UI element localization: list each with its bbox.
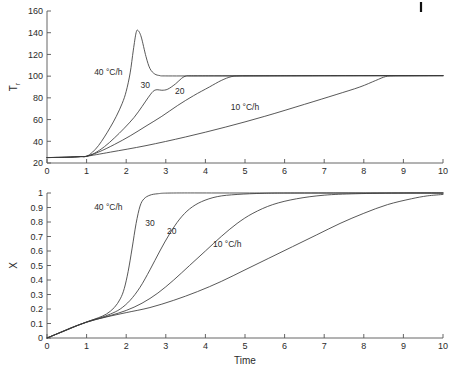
x-axis-title: Time xyxy=(234,355,256,365)
y-tick-label: 100 xyxy=(28,71,43,81)
curve-30 xyxy=(47,76,443,158)
y-tick-label: 0.6 xyxy=(30,246,43,256)
y-tick-label: 0 xyxy=(38,333,43,343)
temperature-chart: 01234567891020406080100120140160Tr40 °C/… xyxy=(8,6,448,176)
curve-40-c-h xyxy=(47,30,443,158)
x-tick-label: 3 xyxy=(163,166,168,176)
curve-annotation: 20 xyxy=(167,226,177,236)
curve-annotation: 30 xyxy=(145,218,155,228)
y-tick-label: 1 xyxy=(38,188,43,198)
y-tick-label: 0.1 xyxy=(30,319,43,329)
charts-svg: 01234567891020406080100120140160Tr40 °C/… xyxy=(0,0,454,365)
x-tick-label: 8 xyxy=(361,341,366,351)
x-tick-label: 9 xyxy=(401,341,406,351)
x-tick-label: 1 xyxy=(84,341,89,351)
y-tick-label: 0.2 xyxy=(30,304,43,314)
y-tick-label: 0.4 xyxy=(30,275,43,285)
x-tick-label: 0 xyxy=(44,166,49,176)
y-tick-label: 0.9 xyxy=(30,203,43,213)
figure-container: 01234567891020406080100120140160Tr40 °C/… xyxy=(0,0,454,365)
y-tick-label: 60 xyxy=(33,115,43,125)
curve-annotation: 30 xyxy=(140,80,150,90)
y-axis-title: Tr xyxy=(8,82,21,91)
x-tick-label: 8 xyxy=(361,166,366,176)
x-tick-label: 7 xyxy=(322,166,327,176)
x-tick-label: 3 xyxy=(163,341,168,351)
x-tick-label: 6 xyxy=(282,341,287,351)
y-tick-label: 160 xyxy=(28,6,43,16)
y-tick-label: 0.7 xyxy=(30,232,43,242)
x-tick-label: 2 xyxy=(124,166,129,176)
y-axis-title-sub: r xyxy=(14,82,21,85)
y-tick-label: 20 xyxy=(33,158,43,168)
x-tick-label: 4 xyxy=(203,166,208,176)
curve-annotation: 40 °C/h xyxy=(94,67,123,77)
x-tick-label: 7 xyxy=(322,341,327,351)
y-tick-label: 0.5 xyxy=(30,261,43,271)
x-tick-label: 10 xyxy=(438,341,448,351)
x-tick-label: 1 xyxy=(84,166,89,176)
conversion-chart: 01234567891000.10.20.30.40.50.60.70.80.9… xyxy=(8,188,448,365)
y-tick-label: 40 xyxy=(33,137,43,147)
x-tick-label: 4 xyxy=(203,341,208,351)
curve-20 xyxy=(47,193,443,338)
x-tick-label: 9 xyxy=(401,166,406,176)
x-tick-label: 2 xyxy=(124,341,129,351)
y-tick-label: 0.8 xyxy=(30,217,43,227)
y-tick-label: 120 xyxy=(28,50,43,60)
y-tick-label: 0.3 xyxy=(30,290,43,300)
x-tick-label: 6 xyxy=(282,166,287,176)
y-axis-title: X xyxy=(8,262,19,269)
x-tick-label: 5 xyxy=(242,166,247,176)
x-tick-label: 0 xyxy=(44,341,49,351)
curve-annotation: 10 °C/h xyxy=(213,239,242,249)
x-tick-label: 5 xyxy=(242,341,247,351)
y-tick-label: 80 xyxy=(33,93,43,103)
curve-annotation: 10 °C/h xyxy=(231,102,260,112)
x-tick-label: 10 xyxy=(438,166,448,176)
curve-annotation: 20 xyxy=(175,86,185,96)
y-tick-label: 140 xyxy=(28,28,43,38)
curve-annotation: 40 °C/h xyxy=(94,202,123,212)
